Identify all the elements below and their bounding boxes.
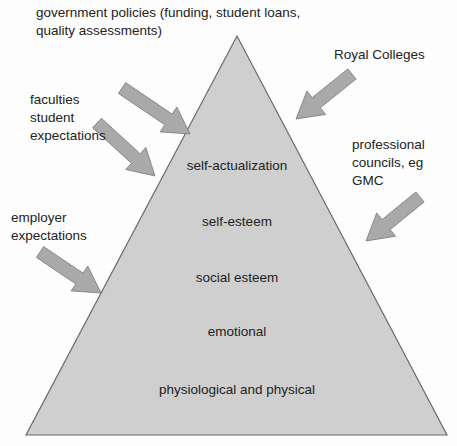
- label-line: GMC: [352, 172, 425, 190]
- tier-self-esteem: self-esteem: [202, 214, 272, 229]
- label-line: expectations: [30, 127, 106, 145]
- label-professional-councils: professional councils, eg GMC: [352, 136, 425, 190]
- label-government: government policies (funding, student lo…: [36, 4, 300, 40]
- label-line: quality assessments): [36, 22, 300, 40]
- label-employer: employer expectations: [11, 209, 87, 245]
- label-line: councils, eg: [352, 154, 425, 172]
- arrow-government-icon: [118, 83, 190, 134]
- label-line: expectations: [11, 227, 87, 245]
- label-line: employer: [11, 209, 87, 227]
- label-line: professional: [352, 136, 425, 154]
- label-faculties: faculties student expectations: [30, 91, 106, 145]
- label-line: Royal Colleges: [334, 46, 425, 64]
- tier-emotional: emotional: [208, 324, 267, 339]
- label-line: faculties: [30, 91, 106, 109]
- label-line: government policies (funding, student lo…: [36, 4, 300, 22]
- tier-physiological: physiological and physical: [159, 382, 315, 397]
- tier-self-actualization: self-actualization: [187, 158, 288, 173]
- label-royal-colleges: Royal Colleges: [334, 46, 425, 64]
- label-line: student: [30, 109, 106, 127]
- arrow-royal-colleges-icon: [296, 69, 356, 119]
- tier-social-esteem: social esteem: [196, 270, 279, 285]
- arrow-professional-icon: [366, 192, 424, 241]
- arrow-employer-icon: [36, 247, 101, 293]
